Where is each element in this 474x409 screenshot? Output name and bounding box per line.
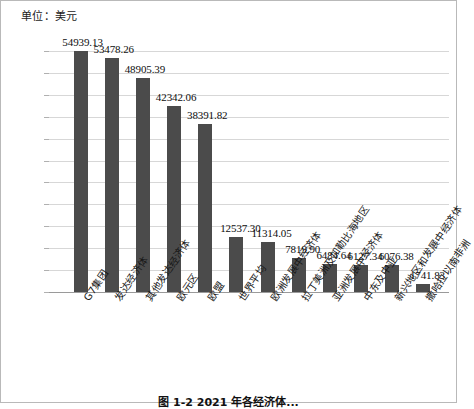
y-tick-mark bbox=[44, 117, 49, 118]
y-tick-mark bbox=[44, 204, 49, 205]
y-tick-mark bbox=[44, 226, 49, 227]
y-tick-mark bbox=[44, 139, 49, 140]
y-tick-mark bbox=[44, 161, 49, 162]
y-tick-mark bbox=[44, 292, 49, 293]
bar-value-label: 48905.39 bbox=[125, 63, 165, 75]
bar bbox=[74, 51, 88, 292]
unit-label: 单位：美元 bbox=[21, 7, 78, 23]
y-tick-mark bbox=[44, 182, 49, 183]
bar-value-label: 42342.06 bbox=[156, 91, 196, 103]
y-tick-mark bbox=[44, 73, 49, 74]
y-tick-mark bbox=[44, 270, 49, 271]
y-tick-mark bbox=[44, 51, 49, 52]
bar-value-label: 11314.05 bbox=[252, 227, 292, 239]
bar bbox=[105, 58, 119, 292]
bar-value-label: 53478.26 bbox=[94, 43, 134, 55]
y-tick-mark bbox=[44, 95, 49, 96]
bar bbox=[198, 124, 212, 292]
y-tick-mark bbox=[44, 248, 49, 249]
bar-value-label: 38391.82 bbox=[187, 109, 227, 121]
figure-caption: 图 1-2 2021 年各经济体... bbox=[1, 393, 456, 409]
